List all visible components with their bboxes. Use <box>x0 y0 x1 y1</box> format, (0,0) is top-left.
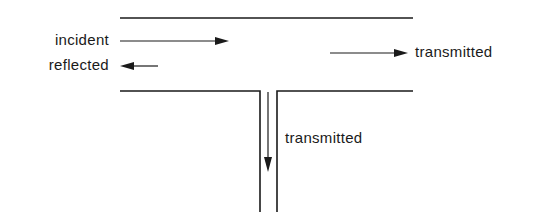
transmitted-down-arrow-icon <box>264 92 272 172</box>
reflected-arrow-icon <box>120 62 158 70</box>
bottom-left-wall <box>120 91 260 212</box>
incident-arrow-icon <box>120 37 229 45</box>
waveguide-diagram: incident reflected transmitted transmitt… <box>0 0 546 218</box>
bottom-right-wall <box>277 91 413 212</box>
transmitted-right-arrow-icon <box>330 49 408 57</box>
reflected-label: reflected <box>49 56 109 73</box>
incident-label: incident <box>55 31 110 48</box>
transmitted-down-label: transmitted <box>285 129 363 146</box>
transmitted-right-label: transmitted <box>415 43 493 60</box>
